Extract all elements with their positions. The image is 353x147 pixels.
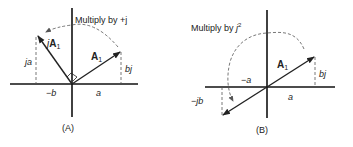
vector-neg-a1 <box>223 87 267 115</box>
phasor-diagram: Multiply by +j jA1 A1 ja bj −b a (A) Mul… <box>0 0 353 147</box>
a1-label: A1 <box>91 51 102 63</box>
neg-jb-label: −jb <box>191 96 203 106</box>
panel-b: Multiply by j2 A1 −a bj −jb a (B) <box>191 10 335 135</box>
bj-label: bj <box>125 64 133 74</box>
neg-a-label: −a <box>241 75 251 85</box>
title-a: Multiply by +j <box>75 15 127 25</box>
a1-label: A1 <box>277 59 288 71</box>
ja1-label: jA1 <box>45 38 60 50</box>
a-label: a <box>288 92 293 102</box>
ja-label: ja <box>24 57 32 67</box>
rotation-arc <box>228 32 304 101</box>
bj-label: bj <box>319 69 327 79</box>
vector-a1 <box>267 57 314 87</box>
caption-b: (B) <box>256 125 268 135</box>
a-label: a <box>96 88 101 98</box>
title-b: Multiply by j2 <box>191 22 242 33</box>
caption-a: (A) <box>62 123 74 133</box>
panel-a: Multiply by +j jA1 A1 ja bj −b a (A) <box>10 8 138 133</box>
neg-b-label: −b <box>46 88 56 98</box>
